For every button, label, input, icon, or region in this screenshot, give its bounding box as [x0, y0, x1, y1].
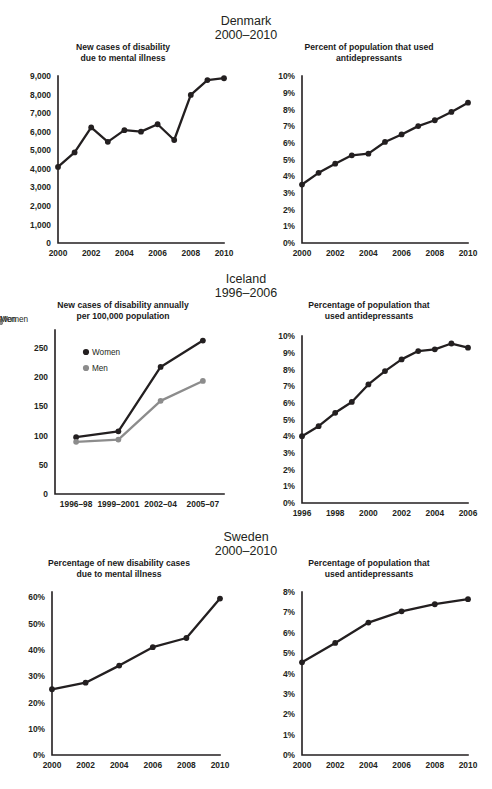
data-point-marker [200, 378, 206, 384]
country-period-denmark: 2000–2010 [0, 28, 492, 42]
data-point-marker [299, 659, 305, 665]
y-axis-tick-label: 10% [278, 331, 295, 341]
data-point-marker [299, 182, 305, 188]
data-point-marker [217, 596, 223, 602]
y-axis-tick-label: 2,000 [30, 201, 51, 211]
y-axis-tick-label: 3% [283, 188, 296, 198]
data-point-marker [382, 368, 388, 374]
data-point-marker [316, 170, 322, 176]
data-point-marker [205, 77, 211, 83]
country-name-iceland: Iceland [0, 272, 492, 286]
y-axis-tick-label: 30% [28, 671, 45, 681]
data-point-marker [72, 150, 78, 156]
y-axis-tick-label: 4,000 [30, 164, 51, 174]
y-axis-tick-label: 8% [283, 105, 296, 115]
x-axis-tick-label: 2006 [143, 760, 162, 770]
x-axis-tick-label: 2000 [43, 760, 62, 770]
chart-denmark-disability: 01,0002,0003,0004,0005,0006,0007,0008,00… [0, 62, 246, 262]
chart-iceland-disability: 0501001502002501996–981999–20012002–0420… [0, 322, 246, 522]
data-point-marker [349, 152, 355, 158]
data-point-marker [122, 127, 128, 133]
chart-title-sweden-antidepressants: Percentage of population that used antid… [264, 558, 474, 579]
chart-iceland-antidepressants: 0%1%2%3%4%5%6%7%8%9%10%19961998200020022… [246, 322, 492, 522]
x-axis-tick-label: 2004 [359, 248, 378, 258]
chart-axes [52, 592, 220, 755]
y-axis-tick-label: 7,000 [30, 108, 51, 118]
x-axis-tick-label: 2000 [293, 248, 312, 258]
x-axis-tick-label: 2004 [425, 508, 444, 518]
data-point-marker [299, 433, 305, 439]
y-axis-tick-label: 3,000 [30, 182, 51, 192]
x-axis-tick-label: 2004 [115, 248, 134, 258]
x-axis-tick-label: 2002 [326, 248, 345, 258]
data-point-marker [184, 635, 190, 641]
y-axis-tick-label: 50 [39, 460, 49, 470]
data-point-marker [115, 437, 121, 443]
data-point-marker [349, 399, 355, 405]
chart-axes [302, 76, 468, 243]
y-axis-tick-label: 40% [28, 645, 45, 655]
x-axis-tick-label: 1998 [326, 508, 345, 518]
x-axis-tick-label: 2008 [425, 248, 444, 258]
data-point-marker [150, 644, 156, 650]
y-axis-tick-label: 5,000 [30, 145, 51, 155]
x-axis-tick-label: 2002 [392, 508, 411, 518]
series-line-men [76, 381, 203, 442]
x-axis-tick-label: 1999–2001 [97, 499, 139, 509]
data-point-marker [116, 663, 122, 669]
chart-sweden-antidepressants: 0%1%2%3%4%5%6%7%8%2000200220042006200820… [246, 578, 492, 778]
x-axis-tick-label: 1996 [293, 508, 312, 518]
y-axis-tick-label: 6,000 [30, 127, 51, 137]
x-axis-tick-label: 2008 [177, 760, 196, 770]
y-axis-tick-label: 6% [283, 628, 296, 638]
data-point-marker [83, 680, 89, 686]
country-name-sweden: Sweden [0, 530, 492, 544]
x-axis-tick-label: 2002 [76, 760, 95, 770]
data-point-marker [73, 439, 79, 445]
data-point-marker [415, 348, 421, 354]
data-point-marker [465, 345, 471, 351]
y-axis-tick-label: 7% [283, 121, 296, 131]
y-axis-tick-label: 2% [283, 465, 296, 475]
data-point-marker [399, 132, 405, 138]
x-axis-tick-label: 2010 [459, 248, 478, 258]
series-line-main [302, 599, 468, 662]
chart-title-denmark-antidepressants: Percent of population that used antidepr… [264, 42, 474, 63]
y-axis-tick-label: 1% [283, 730, 296, 740]
y-axis-tick-label: 8% [283, 587, 296, 597]
y-axis-tick-label: 5% [283, 155, 296, 165]
data-point-marker [158, 398, 164, 404]
data-point-marker [366, 620, 372, 626]
y-axis-tick-label: 0 [43, 489, 48, 499]
data-point-marker [188, 92, 194, 98]
x-axis-tick-label: 2005–07 [187, 499, 220, 509]
x-axis-tick-label: 2000 [359, 508, 378, 518]
data-point-marker [449, 341, 455, 347]
country-period-iceland: 1996–2006 [0, 286, 492, 300]
chart-denmark-antidepressants: 0%1%2%3%4%5%6%7%8%9%10%20002002200420062… [246, 62, 492, 262]
data-point-marker [138, 129, 144, 135]
y-axis-tick-label: 100 [34, 431, 48, 441]
y-axis-tick-label: 7% [283, 381, 296, 391]
data-point-marker [115, 428, 121, 434]
y-axis-tick-label: 2% [283, 709, 296, 719]
y-axis-tick-label: 6% [283, 138, 296, 148]
data-point-marker [88, 124, 94, 130]
chart-sweden-disability: 0%10%20%30%40%50%60%20002002200420062008… [0, 578, 246, 778]
series-line-main [58, 78, 224, 167]
country-period-sweden: 2000–2010 [0, 544, 492, 558]
data-point-marker [316, 423, 322, 429]
data-point-marker [171, 137, 177, 143]
x-axis-tick-label: 2004 [110, 760, 129, 770]
y-axis-tick-label: 8% [283, 365, 296, 375]
x-axis-tick-label: 2010 [215, 248, 234, 258]
x-axis-tick-label: 2002 [82, 248, 101, 258]
y-axis-tick-label: 1,000 [30, 220, 51, 230]
data-point-marker [432, 601, 438, 607]
y-axis-tick-label: 60% [28, 592, 45, 602]
data-point-marker [366, 151, 372, 157]
y-axis-tick-label: 8,000 [30, 90, 51, 100]
country-header-iceland: Iceland 1996–2006 [0, 272, 492, 300]
y-axis-tick-label: 250 [34, 343, 48, 353]
data-point-marker [105, 139, 111, 145]
